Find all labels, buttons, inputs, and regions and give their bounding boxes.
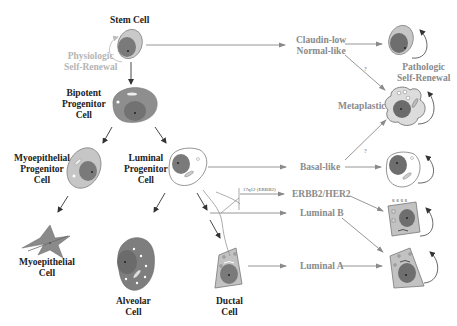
pathologic-line2: Self-Renewal — [397, 73, 450, 84]
metaplastic-tumor-cell-icon — [385, 87, 434, 125]
basal-like-tumor-cell-icon — [386, 152, 433, 187]
metaplastic-label: Metaplastic — [338, 101, 386, 112]
bipotent-line1: Bipotent — [62, 88, 106, 99]
ductal-line2: Cell — [216, 307, 243, 318]
her2-tumor-cell-icon: s s s s — [388, 197, 433, 236]
bipotent-line3: Cell — [62, 110, 106, 121]
ductal-line1: Ductal — [216, 296, 243, 307]
svg-text:s s s s: s s s s — [392, 197, 408, 203]
luminal-tumor-cell-icon — [390, 248, 438, 288]
physiologic-line1: Physiologic — [64, 51, 117, 62]
arrow-luminal-b-to-luminal-tumor — [342, 218, 383, 252]
ductal-cell-icon — [215, 248, 242, 288]
bipotent-line2: Progenitor — [62, 99, 106, 110]
stem-cell-label: Stem Cell — [110, 15, 149, 26]
alveolar-cell-label: Alveolar Cell — [116, 296, 151, 318]
myo-progenitor-line2: Progenitor — [14, 164, 70, 175]
luminal-progenitor-line1: Luminal — [124, 153, 168, 164]
claudin-line1: Claudin-low — [296, 35, 346, 46]
luminal-a-label: Luminal A — [300, 261, 344, 272]
luminal-progenitor-label: Luminal Progenitor Cell — [124, 153, 168, 186]
arrow-erbb2-to-her2-tumor — [350, 196, 383, 211]
claudin-low-tumor-cell-icon — [385, 22, 427, 58]
claudin-line2: Normal-like — [296, 46, 346, 57]
luminal-progenitor-line3: Cell — [124, 175, 168, 186]
amplicon-17q12-label: 17q12 (ERBB2) — [243, 184, 276, 195]
myo-cell-line2: Cell — [19, 268, 75, 279]
arrow-luminal-progenitor-to-ductal-1 — [197, 193, 207, 210]
myo-progenitor-line1: Myoepithelial — [14, 153, 70, 164]
erbb2-label: ERBB2/HER2 — [292, 189, 351, 200]
question-mark-2: ? — [364, 146, 367, 157]
bipotent-progenitor-cell-icon — [113, 88, 157, 123]
bipotent-progenitor-label: Bipotent Progenitor Cell — [62, 88, 106, 121]
physiologic-self-renewal-label: Physiologic Self-Renewal — [64, 51, 117, 73]
arrow-luminal-progenitor-to-alveolar — [154, 193, 165, 212]
pathologic-line1: Pathologic — [397, 62, 450, 73]
arrow-myo-progenitor-to-myo-cell — [58, 196, 68, 212]
luminal-progenitor-cell-icon — [169, 148, 207, 185]
myoepithelial-progenitor-label: Myoepithelial Progenitor Cell — [14, 153, 70, 186]
arrow-luminal-progenitor-to-ductal-2 — [210, 220, 220, 238]
arrow-bipotent-to-luminal-progenitor — [155, 127, 166, 143]
alveolar-line2: Cell — [116, 307, 151, 318]
physiologic-line2: Self-Renewal — [64, 62, 117, 73]
basal-like-label: Basal-like — [300, 162, 340, 173]
amplification-lines — [203, 188, 240, 256]
ductal-cell-label: Ductal Cell — [216, 296, 243, 318]
myoepithelial-cell-label: Myoepithelial Cell — [19, 257, 75, 279]
myo-cell-line1: Myoepithelial — [19, 257, 75, 268]
luminal-progenitor-line2: Progenitor — [124, 164, 168, 175]
myo-progenitor-line3: Cell — [14, 175, 70, 186]
pathologic-self-renewal-label: Pathologic Self-Renewal — [397, 62, 450, 84]
luminal-b-label: Luminal B — [300, 208, 344, 219]
stem-cell-icon — [114, 26, 147, 62]
myoepithelial-cell-icon — [22, 225, 70, 258]
alveolar-line1: Alveolar — [116, 296, 151, 307]
arrow-bipotent-to-myo-progenitor — [103, 127, 112, 143]
question-mark-1: ? — [364, 64, 367, 75]
alveolar-cell-icon — [117, 238, 154, 291]
claudin-low-label: Claudin-low Normal-like — [296, 35, 346, 57]
